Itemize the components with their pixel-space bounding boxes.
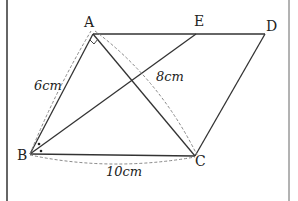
segment-BC [30,154,195,156]
diagram-frame: A E D B C 6cm 8cm 10cm [0,0,298,201]
right-angle-mark [90,39,98,44]
angle-dot-icon [40,150,43,153]
geometry-diagram: A E D B C 6cm 8cm 10cm [0,0,298,201]
segment-BE [30,34,196,154]
angle-dot-icon [38,143,41,146]
point-label-C: C [195,153,206,169]
point-label-E: E [194,13,204,29]
segment-CD [195,34,265,156]
point-label-D: D [266,18,277,34]
segment-AB [30,34,93,154]
point-label-A: A [83,14,95,30]
dimension-arc-AC [95,31,197,155]
length-label-AB: 6cm [34,78,62,93]
dimension-arc-BC [30,155,195,164]
point-label-B: B [17,147,27,163]
segment-AC [93,34,195,156]
length-label-AC: 8cm [156,69,184,84]
length-label-BC: 10cm [106,164,142,179]
